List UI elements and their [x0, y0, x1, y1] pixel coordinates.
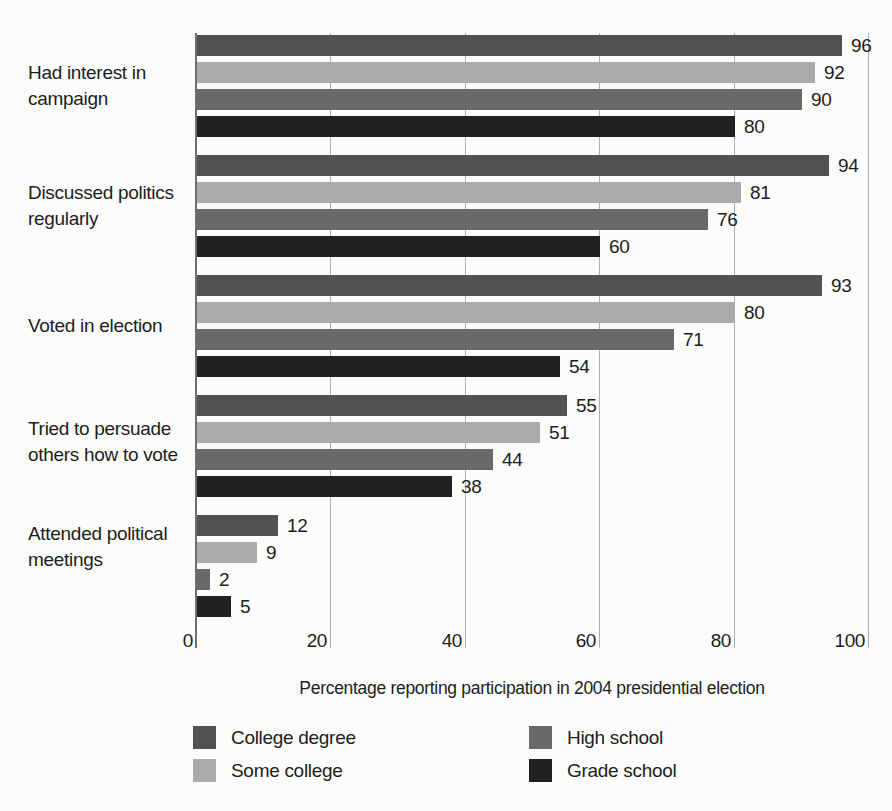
legend-swatch-college-degree [193, 726, 216, 749]
bar-value-label: 80 [744, 116, 764, 138]
gridline-x-100 [868, 33, 869, 648]
bar-value-label: 94 [838, 155, 858, 177]
bar-grade-school-group-0 [197, 116, 735, 137]
category-label-0: Had interest in campaign [28, 60, 198, 112]
bar-high-school-group-0 [197, 89, 802, 110]
legend-label-grade-school: Grade school [567, 760, 676, 782]
legend-swatch-high-school [529, 726, 552, 749]
bar-value-label: 9 [266, 542, 276, 564]
bar-high-school-group-1 [197, 209, 708, 230]
bar-value-label: 2 [219, 569, 229, 591]
bar-grade-school-group-2 [197, 356, 560, 377]
bar-value-label: 5 [240, 596, 250, 618]
bar-value-label: 71 [683, 329, 703, 351]
bar-college-degree-group-3 [197, 395, 567, 416]
bar-value-label: 92 [824, 62, 844, 84]
bar-value-label: 54 [569, 356, 589, 378]
category-label-4: Attended political meetings [28, 521, 198, 573]
legend-entry-college-degree: College degree [193, 726, 356, 749]
bar-college-degree-group-2 [197, 275, 822, 296]
x-axis-tick-label-100: 100 [821, 630, 865, 652]
bar-some-college-group-3 [197, 422, 540, 443]
x-axis-tick-label-40: 40 [418, 630, 462, 652]
bar-some-college-group-0 [197, 62, 815, 83]
bar-grade-school-group-4 [197, 596, 231, 617]
category-label-2: Voted in election [28, 313, 198, 339]
x-axis-tick-label-80: 80 [687, 630, 731, 652]
bar-some-college-group-2 [197, 302, 735, 323]
bar-some-college-group-4 [197, 542, 257, 563]
legend-swatch-some-college [193, 759, 216, 782]
chart-figure: 02040608010096929080Had interest in camp… [0, 0, 892, 811]
category-label-1: Discussed politics regularly [28, 180, 198, 232]
bar-college-degree-group-0 [197, 35, 842, 56]
bar-high-school-group-3 [197, 449, 493, 470]
bar-value-label: 51 [549, 422, 569, 444]
bar-some-college-group-1 [197, 182, 741, 203]
bar-value-label: 76 [717, 209, 737, 231]
bar-value-label: 44 [502, 449, 522, 471]
bar-college-degree-group-4 [197, 515, 278, 536]
bar-college-degree-group-1 [197, 155, 829, 176]
bar-value-label: 96 [851, 35, 871, 57]
bar-value-label: 93 [831, 275, 851, 297]
legend-label-some-college: Some college [231, 760, 343, 782]
legend-label-high-school: High school [567, 727, 663, 749]
category-label-3: Tried to persuade others how to vote [28, 416, 198, 468]
bar-value-label: 90 [811, 89, 831, 111]
x-axis-tick-label-0: 0 [149, 630, 193, 652]
legend-entry-grade-school: Grade school [529, 759, 676, 782]
legend-entry-some-college: Some college [193, 759, 343, 782]
bar-high-school-group-2 [197, 329, 674, 350]
bar-grade-school-group-3 [197, 476, 452, 497]
legend-label-college-degree: College degree [231, 727, 356, 749]
legend-swatch-grade-school [529, 759, 552, 782]
legend-entry-high-school: High school [529, 726, 663, 749]
bar-value-label: 81 [750, 182, 770, 204]
x-axis-tick-label-60: 60 [552, 630, 596, 652]
bar-value-label: 55 [576, 395, 596, 417]
x-axis-tick-label-20: 20 [283, 630, 327, 652]
x-axis-label: Percentage reporting participation in 20… [196, 678, 868, 699]
bar-high-school-group-4 [197, 569, 210, 590]
bar-value-label: 38 [461, 476, 481, 498]
bar-value-label: 80 [744, 302, 764, 324]
bar-grade-school-group-1 [197, 236, 600, 257]
bar-value-label: 12 [287, 515, 307, 537]
bar-value-label: 60 [609, 236, 629, 258]
